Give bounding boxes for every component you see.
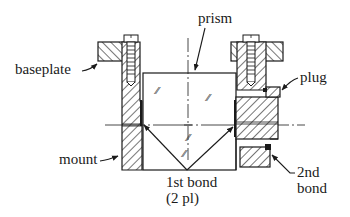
right-mount-lower — [236, 97, 278, 139]
mount-leader — [100, 156, 118, 161]
prism-leader — [195, 28, 205, 70]
left-baseplate — [98, 42, 124, 61]
plug-leader — [282, 78, 298, 90]
label-second-bond-line1: 2nd — [297, 164, 320, 180]
label-first-bond: 1st bond — [166, 174, 218, 190]
right-bond-strip — [234, 100, 236, 137]
label-mount: mount — [59, 151, 98, 167]
prism-mount-diagram: ⁄⁄ ⁄⁄ ⁄⁄ ⁄⁄ baseplate prism — [0, 0, 350, 217]
label-first-bond-count: (2 pl) — [166, 190, 199, 207]
second-bond-leader — [272, 155, 295, 173]
label-plug: plug — [300, 69, 327, 85]
left-bond-strip — [140, 100, 142, 126]
label-prism: prism — [198, 10, 233, 26]
label-baseplate: baseplate — [15, 61, 71, 77]
label-second-bond-line2: bond — [297, 180, 328, 196]
baseplate-leader — [82, 64, 97, 71]
